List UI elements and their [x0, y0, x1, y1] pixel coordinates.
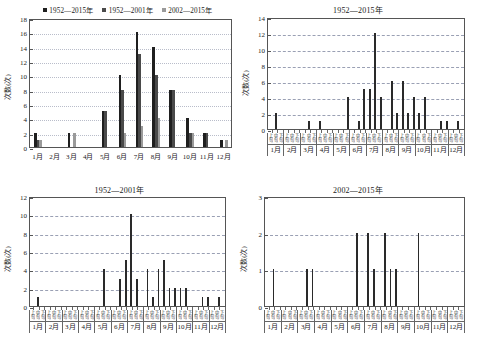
bar: [413, 97, 415, 129]
bar: [207, 297, 209, 306]
bar: [158, 269, 160, 306]
legend-item-1: 1952—2001年: [102, 5, 152, 15]
bar: [418, 113, 420, 129]
x-axis-dekad-label: 下旬: [459, 133, 464, 144]
bar: [206, 133, 209, 147]
x-axis-dekad-label: 下旬: [377, 133, 382, 144]
bar-series: [265, 198, 464, 306]
bar: [218, 297, 220, 306]
bar: [130, 214, 132, 306]
bar: [390, 269, 392, 306]
x-axis-month-label: 4月: [315, 322, 332, 333]
x-axis-dekad-label: 下旬: [187, 310, 192, 321]
x-axis-month-cell: 上旬中旬下旬: [317, 133, 333, 144]
bar: [457, 121, 459, 129]
x-axis-month-label: 9月: [398, 322, 415, 333]
x-axis-dekads-p2: 上旬中旬下旬上旬中旬下旬上旬中旬下旬上旬中旬下旬上旬中旬下旬上旬中旬下旬上旬中旬…: [267, 130, 465, 156]
bar: [152, 297, 154, 306]
x-axis-month-label: 3月: [63, 151, 80, 161]
legend-swatch-0: [43, 8, 47, 12]
x-axis-dekad-label: 下旬: [393, 133, 398, 144]
x-axis-dekad-label: 下旬: [409, 310, 414, 321]
bar-series: [30, 198, 225, 306]
x-axis-month-label: 2月: [46, 151, 63, 161]
bar: [440, 121, 442, 129]
y-axis-label-p3: 次数(次): [2, 236, 12, 282]
bar: [384, 233, 386, 306]
x-axis-month-label: 6月: [112, 322, 128, 333]
bar: [192, 133, 195, 147]
y-axis-tick: 12: [20, 194, 30, 202]
panel-dekad-2002-2015: 2002—2015年 次数(次) 0123 上旬中旬下旬上旬中旬下旬上旬中旬下旬…: [239, 180, 477, 358]
bar: [312, 269, 314, 306]
x-axis-month-cell: 上旬中旬下旬: [348, 310, 365, 321]
x-axis-dekad-label: 下旬: [342, 310, 347, 321]
y-axis-tick: 16: [20, 30, 30, 38]
y-axis-label-p1: 次数(次): [2, 64, 12, 110]
bar: [273, 269, 275, 306]
x-axis-month-label: 5月: [97, 151, 114, 161]
x-axis-month-cell: 上旬中旬下旬: [416, 133, 432, 144]
bar: [358, 121, 360, 129]
x-axis-dekad-label: 下旬: [73, 310, 78, 321]
x-axis-month-label: 10月: [416, 145, 432, 156]
x-axis-month-label: 3月: [298, 322, 315, 333]
figure-grid: 1952—2015年 1952—2001年 2002—2015年 次数(次) 0…: [0, 0, 477, 358]
x-axis-month-label: 11月: [198, 151, 215, 161]
x-axis-dekad-label: 下旬: [278, 133, 283, 144]
plot-area-p2: 02468101214: [267, 18, 465, 130]
x-axis-months-p1: 1月2月3月4月5月6月7月8月9月10月11月12月: [29, 151, 232, 161]
x-axis-month-cell: 上旬中旬下旬: [267, 133, 284, 144]
x-axis-dekad-label: 下旬: [204, 310, 209, 321]
x-axis-month-cell: 上旬中旬下旬: [383, 133, 399, 144]
y-axis-tick: 14: [258, 15, 268, 23]
x-axis-month-row: 1月2月3月4月5月6月7月8月9月10月11月12月: [29, 321, 226, 333]
x-axis-dekad-label: 下旬: [325, 310, 330, 321]
x-axis-month-label: 7月: [365, 322, 382, 333]
x-axis-month-cell: 上旬中旬下旬: [264, 310, 282, 321]
x-axis-month-label: 12月: [448, 322, 465, 333]
x-axis-dekad-label: 下旬: [359, 310, 364, 321]
legend-label-2: 2002—2015年: [168, 5, 212, 15]
x-axis-dekad-label: 下旬: [57, 310, 62, 321]
bar: [103, 269, 105, 306]
x-axis-month-cell: 上旬中旬下旬: [210, 310, 226, 321]
x-axis-month-label: 1月: [264, 322, 282, 333]
x-axis-month-label: 4月: [80, 151, 97, 161]
bar: [125, 260, 127, 306]
x-axis-dekad-row: 上旬中旬下旬上旬中旬下旬上旬中旬下旬上旬中旬下旬上旬中旬下旬上旬中旬下旬上旬中旬…: [267, 133, 465, 144]
bar: [369, 89, 371, 129]
bar: [363, 89, 365, 129]
y-axis-label-p2: 次数(次): [240, 60, 250, 106]
x-axis-month-label: 11月: [193, 322, 209, 333]
x-axis-month-label: 8月: [147, 151, 164, 161]
bar: [39, 140, 42, 147]
x-axis-month-label: 8月: [382, 322, 399, 333]
x-axis-month-label: 6月: [350, 145, 366, 156]
y-axis-tick: 10: [20, 73, 30, 81]
x-axis-month-label: 7月: [131, 151, 148, 161]
panel-dekad-1952-2001: 1952—2001年 次数(次) 024681012 上旬中旬下旬上旬中旬下旬上…: [0, 180, 239, 358]
x-axis-dekad-label: 下旬: [443, 133, 448, 144]
x-axis-dekad-label: 下旬: [360, 133, 365, 144]
x-axis-month-label: 3月: [301, 145, 317, 156]
bar: [124, 133, 127, 147]
legend-swatch-2: [162, 8, 166, 12]
x-axis-month-label: 10月: [415, 322, 432, 333]
x-axis-month-cell: 上旬中旬下旬: [301, 133, 317, 144]
chart-title-p2: 1952—2015年: [239, 4, 477, 15]
x-axis-month-cell: 上旬中旬下旬: [79, 310, 95, 321]
x-axis-month-cell: 上旬中旬下旬: [398, 310, 415, 321]
x-axis-dekad-label: 下旬: [410, 133, 415, 144]
y-axis-tick: 14: [20, 45, 30, 53]
x-axis-dekad-label: 下旬: [328, 133, 333, 144]
x-axis-dekad-label: 下旬: [392, 310, 397, 321]
legend-label-1: 1952—2001年: [109, 5, 153, 15]
x-axis-month-label: 3月: [63, 322, 79, 333]
x-axis-month-label: 2月: [282, 322, 299, 333]
x-axis-dekads-p3: 上旬中旬下旬上旬中旬下旬上旬中旬下旬上旬中旬下旬上旬中旬下旬上旬中旬下旬上旬中旬…: [29, 307, 226, 333]
bar: [396, 113, 398, 129]
bar: [68, 133, 71, 147]
x-axis-dekad-label: 下旬: [155, 310, 160, 321]
x-axis-dekad-label: 下旬: [459, 310, 464, 321]
